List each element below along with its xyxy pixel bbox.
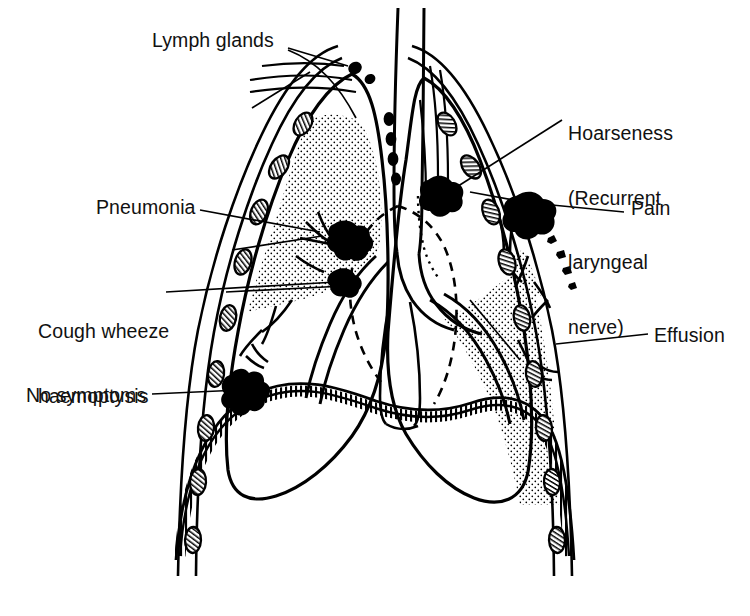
rib: [189, 468, 207, 495]
rib: [549, 527, 566, 554]
label-hoarseness-line3: laryngeal: [568, 252, 673, 274]
label-cough-wheeze-haemoptysis: Cough wheeze haemoptysis: [38, 278, 169, 450]
lymph-node: [388, 152, 399, 166]
lymph-node: [363, 72, 377, 86]
label-no-symptoms: No symptoms: [26, 385, 146, 406]
label-cough-line1: Cough wheeze: [38, 321, 169, 343]
lymph-node: [386, 132, 397, 146]
peripheral-solitary-nodule: [221, 369, 270, 416]
rib: [185, 527, 202, 554]
thorax-diagram: Lymph glands Hoarseness (Recurrent laryn…: [0, 0, 750, 616]
label-pneumonia: Pneumonia: [96, 197, 196, 218]
label-effusion: Effusion: [654, 325, 725, 346]
label-hoarseness-line1: Hoarseness: [568, 123, 673, 145]
rib: [217, 304, 238, 333]
lymph-node: [391, 173, 401, 186]
rib: [496, 247, 519, 277]
paratracheal-tumour-mass: [419, 176, 463, 217]
label-lymph-glands: Lymph glands: [152, 30, 274, 51]
rib: [543, 468, 561, 495]
leader-lymph-glands-b: [288, 50, 356, 118]
label-pain: Pain: [631, 198, 670, 219]
lymph-node: [384, 112, 395, 126]
